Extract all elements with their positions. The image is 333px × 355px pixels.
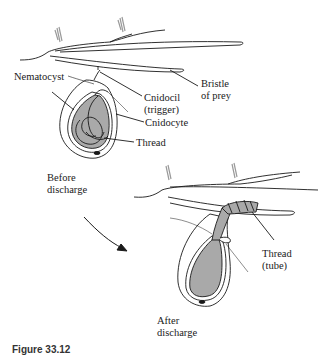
prey-hairs-top bbox=[55, 17, 125, 42]
label-after-discharge: After discharge bbox=[157, 315, 197, 339]
label-bristle: Bristle of prey bbox=[201, 78, 231, 102]
label-thread-tube-line2: (tube) bbox=[262, 260, 292, 272]
label-before-discharge: Before discharge bbox=[47, 172, 87, 196]
label-thread-tube-line1: Thread bbox=[262, 248, 292, 260]
label-cnidocil: Cnidocil (trigger) bbox=[144, 92, 180, 116]
label-bristle-line1: Bristle bbox=[201, 78, 231, 90]
cnidocyte-after bbox=[178, 200, 258, 306]
sequence-arrow bbox=[84, 217, 127, 251]
label-thread: Thread bbox=[136, 137, 166, 149]
cnidocyte-before bbox=[60, 66, 117, 158]
prey-bristle-top bbox=[20, 30, 243, 72]
label-thread-tube: Thread (tube) bbox=[262, 248, 292, 272]
label-after-line1: After bbox=[157, 315, 197, 327]
label-before-line1: Before bbox=[47, 172, 87, 184]
label-cnidocyte: Cnidocyte bbox=[145, 117, 188, 129]
label-nematocyst: Nematocyst bbox=[14, 71, 64, 83]
prey-hairs-bottom bbox=[166, 163, 237, 180]
label-before-line2: discharge bbox=[47, 184, 87, 196]
label-cnidocil-line1: Cnidocil bbox=[144, 92, 180, 104]
label-cnidocil-line2: (trigger) bbox=[144, 104, 180, 116]
figure-caption: Figure 33.12 bbox=[12, 344, 70, 355]
label-bristle-line2: of prey bbox=[201, 90, 231, 102]
label-after-line2: discharge bbox=[157, 327, 197, 339]
